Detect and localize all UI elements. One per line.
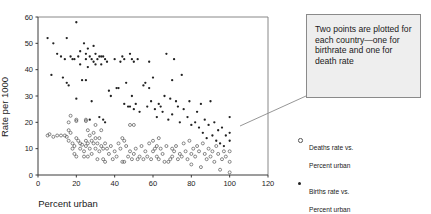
data-point <box>62 76 64 78</box>
data-point <box>165 145 168 148</box>
data-point <box>92 131 95 134</box>
data-point <box>92 142 95 145</box>
data-point <box>96 158 99 161</box>
data-point <box>117 142 120 145</box>
data-point <box>198 150 201 153</box>
data-point <box>157 137 160 140</box>
data-point <box>196 145 199 148</box>
data-point <box>161 111 163 113</box>
data-point <box>69 55 71 57</box>
data-point <box>219 142 221 144</box>
data-point <box>150 158 153 161</box>
data-point <box>98 137 101 140</box>
data-point <box>94 123 97 126</box>
data-point <box>190 124 192 126</box>
annotation-text: Two points are plotted for each country—… <box>315 24 416 66</box>
y-axis-title: Rate per 1000 <box>0 77 10 137</box>
data-point <box>50 74 52 76</box>
data-point <box>64 58 66 60</box>
data-point <box>86 129 89 132</box>
data-point <box>138 111 140 113</box>
data-point <box>98 150 101 153</box>
data-point <box>229 116 231 118</box>
data-point <box>52 135 55 138</box>
data-point <box>152 76 154 78</box>
data-point <box>100 63 102 65</box>
data-point <box>209 155 212 158</box>
data-point <box>173 58 175 60</box>
data-point <box>183 108 185 110</box>
data-point <box>146 155 149 158</box>
data-point <box>202 132 204 134</box>
data-point <box>86 155 89 158</box>
legend-item-births: Births rate vs. Percent urban <box>297 180 422 214</box>
data-point <box>190 152 193 155</box>
data-point <box>96 58 98 60</box>
data-point <box>152 139 155 142</box>
data-point <box>158 103 160 105</box>
data-point <box>160 105 162 107</box>
data-point <box>138 155 141 158</box>
data-point <box>150 100 152 102</box>
data-point <box>125 82 127 84</box>
data-point <box>229 132 231 134</box>
data-point <box>132 123 135 126</box>
data-point <box>192 147 195 150</box>
data-point <box>221 158 224 161</box>
data-point <box>217 152 220 155</box>
data-point <box>165 53 167 55</box>
data-point <box>129 123 132 126</box>
data-point <box>85 58 87 60</box>
data-point <box>104 160 107 163</box>
data-point <box>228 160 231 163</box>
data-point <box>129 53 131 55</box>
data-point <box>60 55 62 57</box>
data-point <box>221 126 223 128</box>
x-tick-60: 60 <box>149 179 157 188</box>
data-point <box>102 55 104 57</box>
x-tick-0: 0 <box>36 179 40 188</box>
data-point <box>79 50 81 52</box>
x-tick-20: 20 <box>72 179 80 188</box>
data-point <box>171 155 174 158</box>
legend-item-deaths: Deaths rate vs. Percent urban <box>297 136 422 172</box>
data-point <box>130 158 133 161</box>
data-point <box>225 134 227 136</box>
data-point <box>127 155 130 158</box>
data-point <box>79 147 82 150</box>
data-point <box>69 131 72 134</box>
data-point <box>117 87 119 89</box>
data-point <box>167 119 169 121</box>
data-point <box>163 95 165 97</box>
data-point <box>94 137 97 140</box>
y-tick-30: 30 <box>25 92 33 101</box>
data-point <box>184 150 187 153</box>
data-points <box>46 21 231 174</box>
open-circle-marker-icon <box>298 138 303 143</box>
data-point <box>155 145 158 148</box>
data-point <box>88 134 91 137</box>
data-point <box>102 119 104 121</box>
data-point <box>175 145 178 148</box>
data-point <box>75 21 77 23</box>
plot-frame <box>38 17 268 175</box>
scatter-plot-figure: 0102030405060020406080100120 Rate per 10… <box>0 0 431 214</box>
data-point <box>163 160 166 163</box>
data-point <box>207 124 209 126</box>
data-point <box>171 113 173 115</box>
y-tick-20: 20 <box>25 118 33 127</box>
data-point <box>171 79 173 81</box>
data-point <box>100 129 103 132</box>
x-axis-title: Percent urban <box>38 198 98 209</box>
data-point <box>89 119 91 121</box>
x-tick-120: 120 <box>262 179 275 188</box>
data-point <box>66 82 68 84</box>
data-point <box>114 58 116 60</box>
data-point <box>219 168 222 171</box>
data-point <box>91 100 93 102</box>
axis-ticks <box>36 17 269 178</box>
data-point <box>186 158 189 161</box>
data-point <box>173 150 176 153</box>
data-point <box>148 142 151 145</box>
x-tick-80: 80 <box>187 179 195 188</box>
